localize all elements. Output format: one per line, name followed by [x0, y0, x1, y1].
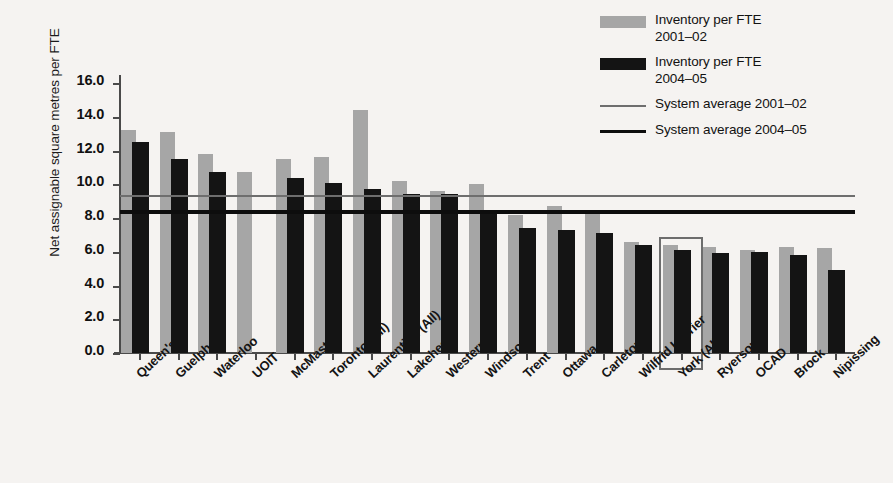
x-axis-tick-mark: [603, 353, 605, 360]
x-axis-tick-mark: [332, 353, 334, 360]
x-axis-tick-mark: [139, 353, 141, 360]
bar-slot[interactable]: [197, 83, 236, 353]
y-axis-tick-mark: [113, 218, 120, 220]
x-axis-tick-mark: [255, 353, 257, 360]
x-axis-tick-mark: [371, 353, 373, 360]
bar-slot[interactable]: [352, 83, 391, 353]
bar-2004-05[interactable]: [519, 228, 536, 353]
legend-entry: System average 2004–05: [600, 122, 890, 139]
y-axis-title: Net assignable square metres per FTE: [47, 3, 62, 283]
bar-slot[interactable]: [275, 83, 314, 353]
x-axis-tick-mark: [294, 353, 296, 360]
legend-entry: System average 2001–02: [600, 96, 890, 113]
bar-slot[interactable]: [546, 83, 585, 353]
x-axis-tick-mark: [565, 353, 567, 360]
y-axis-tick-label: 10.0: [77, 173, 104, 189]
y-axis-tick-label: 2.0: [84, 308, 104, 324]
x-axis-tick-mark: [719, 353, 721, 360]
x-axis-tick-mark: [642, 353, 644, 360]
x-axis-tick-mark: [487, 353, 489, 360]
legend-label: System average 2004–05: [655, 122, 807, 139]
x-axis-tick-mark: [758, 353, 760, 360]
legend-swatch-gray-square-icon: [600, 16, 646, 28]
y-axis-tick-mark: [113, 184, 120, 186]
legend-swatch-black-square-icon: [600, 58, 646, 70]
x-axis-tick-mark: [797, 353, 799, 360]
bar-slot[interactable]: [313, 83, 352, 353]
bar-2004-05[interactable]: [132, 142, 149, 353]
legend-label: System average 2001–02: [655, 96, 807, 113]
legend-swatch-thick-line-icon: [600, 130, 646, 133]
x-axis-tick-mark: [448, 353, 450, 360]
y-axis-tick-mark: [113, 319, 120, 321]
y-axis-tick-label: 0.0: [84, 342, 104, 358]
y-axis-tick-mark: [113, 117, 120, 119]
y-axis-tick-mark: [113, 286, 120, 288]
bar-2004-05[interactable]: [287, 178, 304, 354]
bar-2004-05[interactable]: [790, 255, 807, 353]
y-axis-tick-mark: [113, 151, 120, 153]
system-average-2004-05-line: [120, 210, 855, 213]
bar-2004-05[interactable]: [171, 159, 188, 353]
bar-slot[interactable]: [391, 83, 430, 353]
y-axis-tick-label: 8.0: [84, 207, 104, 223]
chart-page: Net assignable square metres per FTE 16.…: [0, 0, 893, 483]
y-axis-tick-mark: [113, 252, 120, 254]
x-axis-tick-mark: [178, 353, 180, 360]
bar-2004-05[interactable]: [480, 211, 497, 353]
bar-2004-05[interactable]: [828, 270, 845, 353]
x-axis-tick-mark: [216, 353, 218, 360]
bar-2004-05[interactable]: [325, 183, 342, 353]
bar-slot[interactable]: [468, 83, 507, 353]
bar-slot[interactable]: [236, 83, 275, 353]
legend-entry: Inventory per FTE2004–05: [600, 54, 890, 87]
y-axis-tick-label: 16.0: [77, 72, 104, 88]
bar-slot[interactable]: [507, 83, 546, 353]
legend-label: Inventory per FTE2001–02: [655, 12, 761, 45]
legend-label: Inventory per FTE2004–05: [655, 54, 761, 87]
bar-2004-05[interactable]: [558, 230, 575, 353]
system-average-2001-02-line: [120, 195, 855, 197]
bar-slot[interactable]: [120, 83, 159, 353]
x-axis-tick-mark: [526, 353, 528, 360]
bar-2004-05[interactable]: [596, 233, 613, 353]
y-axis-tick-label: 6.0: [84, 241, 104, 257]
bar-2001-02[interactable]: [237, 172, 252, 353]
x-axis-tick-mark: [835, 353, 837, 360]
y-axis-tick-label: 14.0: [77, 106, 104, 122]
legend-swatch-thin-line-icon: [600, 105, 646, 107]
bar-2004-05[interactable]: [209, 172, 226, 353]
x-axis-labels: Queen'sGuelphWaterlooUOITMcMasterToronto…: [120, 360, 880, 480]
bar-2004-05[interactable]: [441, 194, 458, 353]
y-axis-tick-mark: [113, 353, 120, 355]
legend-entry: Inventory per FTE2001–02: [600, 12, 890, 45]
bar-slot[interactable]: [159, 83, 198, 353]
y-axis-tick-mark: [113, 83, 120, 85]
x-axis-tick-mark: [410, 353, 412, 360]
chart-legend: Inventory per FTE2001–02Inventory per FT…: [600, 12, 890, 147]
y-axis-tick-label: 4.0: [84, 275, 104, 291]
y-axis-tick-label: 12.0: [77, 140, 104, 156]
